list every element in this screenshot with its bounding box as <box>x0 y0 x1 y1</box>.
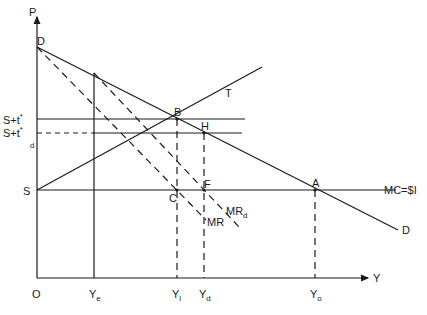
demand-top-label: D <box>37 35 45 47</box>
point-b-label: B <box>174 106 181 118</box>
s-label: S <box>23 185 30 197</box>
demand-end-label: D <box>402 224 410 236</box>
tariff-line-t <box>37 67 262 190</box>
yd-label: Yd <box>199 288 211 303</box>
point-a-label: A <box>312 177 320 189</box>
origin-label: O <box>32 288 41 300</box>
economics-diagram: P Y O S+t* S+t* d S Ye Yl Yd Yo D D T MC… <box>0 0 427 315</box>
ye-label: Ye <box>89 288 101 303</box>
s-t-star-d-subscript: d <box>30 141 34 150</box>
tariff-line-label: T <box>225 87 232 99</box>
mr-label: MR <box>207 216 224 228</box>
s-t-star-label: S+t* <box>3 112 23 126</box>
p-axis-label: P <box>29 6 36 18</box>
y1-label: Yl <box>172 288 181 303</box>
point-f-label: F <box>204 178 211 190</box>
demand-curve <box>37 47 398 230</box>
point-c-label: C <box>169 192 177 204</box>
mr-d-curve <box>94 73 240 228</box>
yo-label: Yo <box>310 288 322 303</box>
y-axis-label: Y <box>373 272 381 284</box>
s-t-star-d-label: S+t* <box>3 125 23 139</box>
mc-label: MC=$I <box>384 184 417 196</box>
point-h-label: H <box>201 120 209 132</box>
mr-d-label: MRd <box>226 205 248 220</box>
